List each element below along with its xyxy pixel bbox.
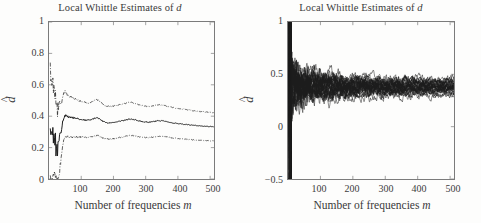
right-plot-area bbox=[287, 21, 455, 180]
panel-left-title-text: Local Whittle Estimates of bbox=[58, 2, 176, 13]
left-series-2 bbox=[50, 135, 213, 179]
left-plot-canvas bbox=[49, 22, 214, 179]
left-ytick-0.8: 0.8 bbox=[14, 47, 44, 58]
right-series-5 bbox=[289, 30, 454, 179]
panel-left-title-symbol: d bbox=[176, 2, 181, 13]
right-xlabel-symbol: m bbox=[422, 199, 430, 211]
left-ytick-0.6: 0.6 bbox=[14, 79, 44, 90]
left-xlabel-text: Number of frequencies bbox=[74, 199, 183, 211]
right-plot-canvas bbox=[288, 22, 454, 179]
left-xlabel-symbol: m bbox=[183, 199, 191, 211]
left-xlabel: Number of frequencies m bbox=[38, 199, 228, 211]
left-xtick-500: 500 bbox=[193, 183, 233, 194]
left-ytick-0.4: 0.4 bbox=[14, 110, 44, 121]
right-ylabel-hat: ^ bbox=[238, 97, 250, 103]
left-ylabel: ^d bbox=[4, 88, 19, 112]
right-xtick-500: 500 bbox=[433, 183, 473, 194]
right-ytick-0: 0 bbox=[253, 121, 283, 132]
panel-right: Local Whittle Estimates of d 1 0.5 0 −0.… bbox=[241, 0, 481, 223]
right-ytick-0.5: 0.5 bbox=[253, 68, 283, 79]
left-ylabel-hat: ^ bbox=[0, 97, 12, 103]
left-ytick-0: 0 bbox=[14, 174, 44, 185]
right-ytick--0.5: −0.5 bbox=[249, 174, 283, 185]
right-ylabel: ^d bbox=[242, 88, 257, 112]
left-ytick-0.2: 0.2 bbox=[14, 142, 44, 153]
left-ytick-1: 1 bbox=[14, 15, 44, 26]
right-series-29 bbox=[289, 39, 454, 179]
panel-left: Local Whittle Estimates of d 1 0.8 0.6 0… bbox=[0, 0, 240, 223]
right-ytick-1: 1 bbox=[253, 15, 283, 26]
right-series-8 bbox=[289, 51, 454, 179]
left-series-0 bbox=[50, 63, 213, 117]
left-plot-area bbox=[48, 21, 215, 180]
panel-right-title: Local Whittle Estimates of d bbox=[241, 2, 481, 13]
right-xlabel-text: Number of frequencies bbox=[313, 199, 422, 211]
panel-right-title-symbol: d bbox=[417, 2, 422, 13]
figure-local-whittle-estimates: Local Whittle Estimates of d 1 0.8 0.6 0… bbox=[0, 0, 481, 223]
panel-left-title: Local Whittle Estimates of d bbox=[0, 2, 240, 13]
panel-right-title-text: Local Whittle Estimates of bbox=[299, 2, 417, 13]
right-xlabel: Number of frequencies m bbox=[277, 199, 467, 211]
